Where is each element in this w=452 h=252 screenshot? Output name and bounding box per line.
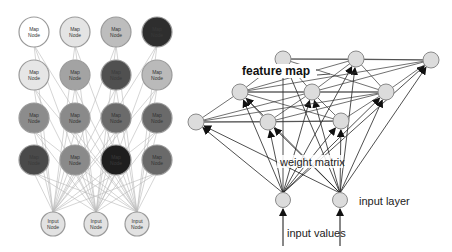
som-diagram: MapNodeMapNodeMapNodeMapNodeMapNodeMapNo…	[0, 0, 452, 252]
feature-map-node	[304, 84, 320, 100]
map-node-label: Node	[28, 32, 40, 38]
map-node-label: Node	[69, 118, 81, 124]
feature-map-node	[348, 51, 364, 67]
map-node: MapNode	[60, 60, 90, 90]
feature-map-label: feature map	[242, 64, 310, 78]
feature-map-link	[196, 92, 386, 122]
left-connection-lines	[34, 45, 157, 212]
feature-map-link	[196, 92, 312, 122]
input-node-label: Node	[90, 224, 102, 230]
map-node-label: Node	[151, 32, 163, 38]
map-node: MapNode	[19, 145, 49, 175]
weight-edge	[283, 98, 380, 193]
weight-edge	[283, 66, 424, 193]
feature-map-node	[378, 84, 394, 100]
map-node-label: Node	[28, 75, 40, 81]
map-node-label: Node	[151, 75, 163, 81]
map-node: MapNode	[60, 103, 90, 133]
input-node-label: Node	[131, 224, 143, 230]
map-node-label: Node	[28, 160, 40, 166]
map-node: MapNode	[101, 145, 131, 175]
map-node: MapNode	[19, 60, 49, 90]
map-node-label: Node	[110, 32, 122, 38]
map-node-label: Node	[69, 160, 81, 166]
map-node: MapNode	[19, 103, 49, 133]
map-node: MapNode	[60, 145, 90, 175]
map-node-label: Node	[151, 160, 163, 166]
map-node-label: Node	[28, 118, 40, 124]
weight-edge	[244, 100, 283, 193]
input-node-label: Node	[47, 224, 59, 230]
map-node: MapNode	[142, 145, 172, 175]
feature-map-node	[333, 113, 349, 129]
map-node: MapNode	[60, 17, 90, 47]
input-node: InputNode	[84, 212, 108, 236]
left-map-grid: MapNodeMapNodeMapNodeMapNodeMapNodeMapNo…	[19, 17, 172, 175]
map-node-label: Node	[69, 75, 81, 81]
input-node: InputNode	[125, 212, 149, 236]
feature-map-node	[260, 114, 276, 130]
map-node: MapNode	[142, 60, 172, 90]
weight-edge	[340, 100, 382, 193]
weight-matrix-label: weight matrix	[279, 156, 345, 168]
map-node: MapNode	[19, 17, 49, 47]
map-node: MapNode	[101, 17, 131, 47]
map-node: MapNode	[142, 17, 172, 47]
map-node-label: Node	[110, 75, 122, 81]
map-node-label: Node	[110, 118, 122, 124]
feature-map-link	[268, 92, 386, 122]
input-node: InputNode	[41, 212, 65, 236]
feature-map-node	[188, 114, 204, 130]
feature-map-pointer	[317, 74, 330, 75]
map-node: MapNode	[101, 103, 131, 133]
map-node-label: Node	[151, 118, 163, 124]
map-node-label: Node	[110, 160, 122, 166]
input-layer-label: input layer	[359, 195, 410, 207]
input-values-label: input values	[287, 227, 346, 239]
input-layer-node	[333, 193, 348, 208]
map-node: MapNode	[101, 60, 131, 90]
map-node: MapNode	[142, 103, 172, 133]
right-feature-map-nodes	[188, 51, 439, 130]
input-layer-node	[276, 193, 291, 208]
feature-map-node	[423, 52, 439, 68]
feature-map-node	[232, 84, 248, 100]
left-input-layer: InputNodeInputNodeInputNode	[41, 212, 149, 236]
map-node-label: Node	[69, 32, 81, 38]
left-edge	[34, 173, 137, 212]
